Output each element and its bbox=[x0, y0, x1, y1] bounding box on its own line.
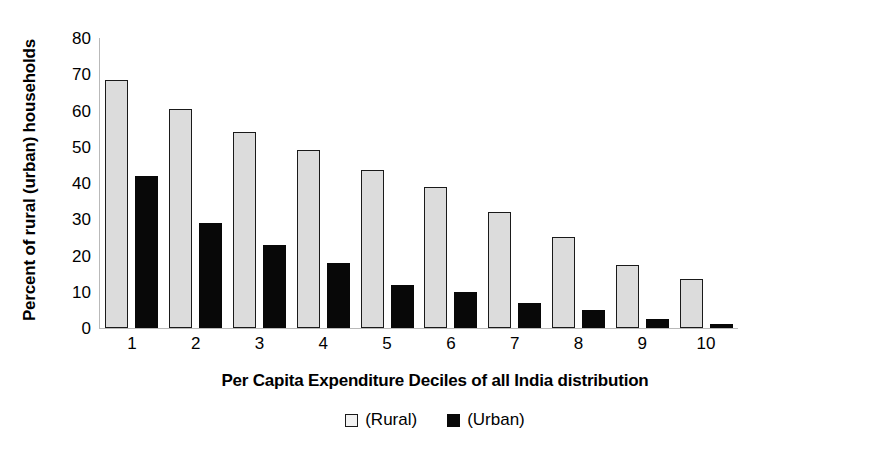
y-axis-tick-label: 60 bbox=[51, 102, 91, 119]
bar-urban bbox=[518, 303, 541, 328]
bar-chart: Percent of rural (urban) households 8070… bbox=[0, 0, 870, 456]
bar-urban bbox=[263, 245, 286, 328]
bar-urban bbox=[327, 263, 350, 328]
x-axis-tick-label: 9 bbox=[610, 334, 674, 354]
bar-group bbox=[291, 38, 355, 328]
y-axis-tick-labels: 80706050403020100 bbox=[49, 38, 91, 328]
bar-group bbox=[610, 38, 674, 328]
x-axis-tick-label: 2 bbox=[164, 334, 228, 354]
bar-group bbox=[547, 38, 611, 328]
bar-groups bbox=[100, 38, 738, 328]
chart-legend: (Rural)(Urban) bbox=[0, 410, 870, 430]
bar-rural bbox=[105, 80, 128, 328]
bar-group bbox=[483, 38, 547, 328]
x-axis-line bbox=[99, 328, 738, 329]
bar-rural bbox=[552, 237, 575, 328]
x-axis-tick-label: 6 bbox=[419, 334, 483, 354]
x-axis-tick-label: 4 bbox=[291, 334, 355, 354]
x-axis-tick-label: 10 bbox=[674, 334, 738, 354]
bar-urban bbox=[646, 319, 669, 328]
bar-group bbox=[355, 38, 419, 328]
bar-urban bbox=[582, 310, 605, 328]
legend-item: (Urban) bbox=[447, 410, 525, 430]
bar-rural bbox=[488, 212, 511, 328]
bar-urban bbox=[135, 176, 158, 328]
bar-urban bbox=[454, 292, 477, 328]
x-axis-title: Per Capita Expenditure Deciles of all In… bbox=[0, 371, 870, 391]
x-axis-tick-label: 3 bbox=[228, 334, 292, 354]
bar-urban bbox=[391, 285, 414, 329]
y-axis-tick-label: 40 bbox=[51, 175, 91, 192]
open-square-marker bbox=[345, 414, 358, 427]
x-axis-tick-label: 8 bbox=[547, 334, 611, 354]
bar-rural bbox=[297, 150, 320, 328]
x-axis-tick-label: 1 bbox=[100, 334, 164, 354]
filled-square-marker bbox=[447, 414, 460, 427]
x-axis-tick-label: 7 bbox=[483, 334, 547, 354]
bar-group bbox=[419, 38, 483, 328]
bar-rural bbox=[680, 279, 703, 328]
y-axis-title: Percent of rural (urban) households bbox=[20, 10, 40, 350]
x-axis-tick-label: 5 bbox=[355, 334, 419, 354]
y-axis-tick-label: 50 bbox=[51, 138, 91, 155]
bar-rural bbox=[169, 109, 192, 328]
legend-label: (Urban) bbox=[467, 410, 525, 430]
y-axis-tick-label: 0 bbox=[51, 320, 91, 337]
y-axis-tick-label: 70 bbox=[51, 66, 91, 83]
legend-label: (Rural) bbox=[365, 410, 417, 430]
legend-item: (Rural) bbox=[345, 410, 417, 430]
bar-urban bbox=[710, 324, 733, 328]
bar-rural bbox=[233, 132, 256, 328]
y-axis-tick-label: 80 bbox=[51, 30, 91, 47]
bar-group bbox=[228, 38, 292, 328]
bar-rural bbox=[424, 187, 447, 328]
bar-group bbox=[100, 38, 164, 328]
y-axis-tick-label: 20 bbox=[51, 247, 91, 264]
bar-rural bbox=[616, 265, 639, 328]
bar-urban bbox=[199, 223, 222, 328]
bar-group bbox=[164, 38, 228, 328]
y-axis-tick-label: 30 bbox=[51, 211, 91, 228]
bar-group bbox=[674, 38, 738, 328]
y-axis-tick-label: 10 bbox=[51, 283, 91, 300]
bar-rural bbox=[361, 170, 384, 328]
x-axis-tick-labels: 12345678910 bbox=[100, 334, 738, 354]
